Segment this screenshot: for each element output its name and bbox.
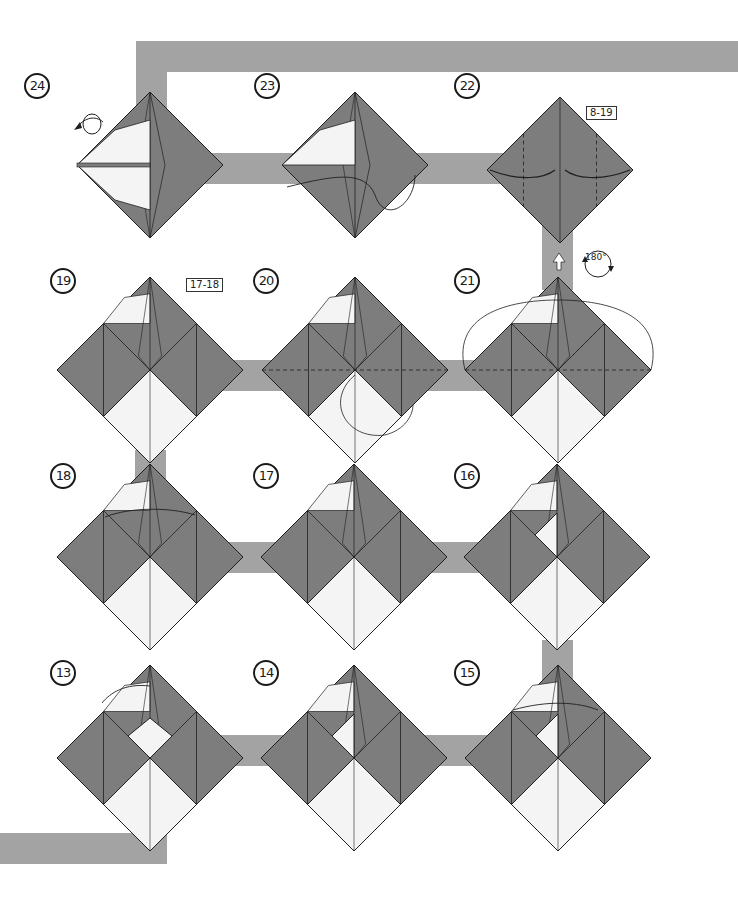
step-23-diagram [282, 92, 428, 238]
step-number-15: 15 [454, 660, 480, 686]
step-20-diagram [262, 277, 448, 463]
step-21-diagram [463, 277, 653, 463]
step-number-19: 19 [50, 268, 76, 294]
step-number-24: 24 [24, 73, 50, 99]
step-19-diagram [57, 277, 243, 463]
step-reference-box: 8-19 [586, 106, 617, 120]
step-number-14: 14 [253, 660, 279, 686]
rotation-label: 180° [585, 252, 607, 262]
step-13-diagram [57, 665, 243, 851]
step-number-23: 23 [254, 73, 280, 99]
step-number-17: 17 [253, 463, 279, 489]
step-number-20: 20 [253, 268, 279, 294]
step-24-diagram [77, 92, 223, 238]
step-14-diagram [261, 665, 447, 851]
step-number-18: 18 [50, 463, 76, 489]
step-number-22: 22 [454, 73, 480, 99]
fold-diagrams [0, 0, 738, 897]
step-number-16: 16 [454, 463, 480, 489]
step-17-diagram [261, 464, 447, 650]
step-reference-box: 17-18 [186, 278, 223, 292]
step-number-13: 13 [50, 660, 76, 686]
arrow-up-icon [553, 253, 565, 270]
step-number-21: 21 [454, 268, 480, 294]
diagram-page: 2423221920211817161314158-1917-18180° [0, 0, 738, 897]
step-15-diagram [465, 665, 651, 851]
step-16-diagram [464, 464, 650, 650]
step-18-diagram [57, 464, 243, 650]
turn-over-icon [74, 114, 103, 134]
